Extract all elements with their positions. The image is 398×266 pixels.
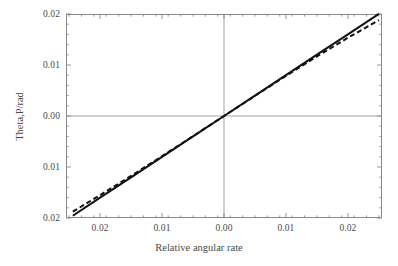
plot-canvas: [66, 14, 382, 218]
y-tick-label: 0.00: [30, 111, 60, 121]
chart-page: 0.020.010.000.010.02 0.020.010.000.010.0…: [0, 0, 398, 266]
x-tick-label: 0.00: [215, 223, 232, 233]
data-series: [73, 14, 379, 216]
x-tick-label: 0.02: [92, 223, 109, 233]
y-tick-label: 0.02: [30, 9, 60, 19]
x-tick-label: 0.01: [154, 223, 171, 233]
x-tick-label: 0.02: [339, 223, 356, 233]
x-axis-title: Relative angular rate: [0, 242, 398, 253]
y-tick-label: 0.01: [30, 60, 60, 70]
y-tick-label: 0.01: [30, 162, 60, 172]
y-tick-label: 0.02: [30, 213, 60, 223]
y-axis-title-wrap: Theta,P/rad: [8, 0, 30, 232]
solid-line: [73, 14, 379, 216]
x-tick-label: 0.01: [277, 223, 294, 233]
y-axis-title: Theta,P/rad: [14, 92, 25, 141]
